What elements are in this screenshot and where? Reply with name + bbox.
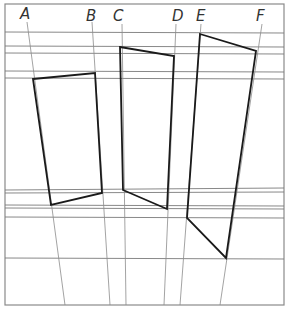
projection-line-f xyxy=(220,24,262,305)
horizontal-line xyxy=(5,192,284,193)
horizontal-line xyxy=(5,53,284,54)
projection-lines xyxy=(27,22,262,305)
horizontal-line xyxy=(5,205,284,206)
horizontal-line xyxy=(5,208,284,209)
quadrilateral-3 xyxy=(187,34,256,258)
horizontal-line xyxy=(5,32,284,33)
quadrilaterals xyxy=(33,34,256,258)
quadrilateral-1 xyxy=(33,73,102,205)
label-a: A xyxy=(19,5,30,23)
horizontal-line xyxy=(5,217,284,218)
label-b: B xyxy=(86,7,96,25)
perspective-diagram: A B C D E F xyxy=(0,0,286,309)
label-f: F xyxy=(256,7,265,25)
projection-line-a xyxy=(27,22,65,305)
label-c: C xyxy=(113,7,124,25)
label-e: E xyxy=(196,7,206,25)
horizontal-line xyxy=(5,188,284,190)
horizontal-line xyxy=(5,258,284,259)
point-labels: A B C D E F xyxy=(19,5,265,25)
horizontal-line xyxy=(5,71,284,72)
label-d: D xyxy=(172,7,184,25)
